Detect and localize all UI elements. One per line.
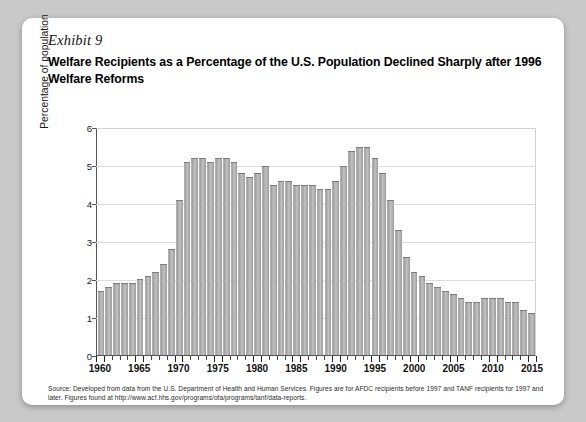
x-axis-tick-mark bbox=[245, 356, 246, 360]
bar bbox=[285, 181, 292, 355]
bar bbox=[505, 302, 512, 355]
bar bbox=[520, 310, 527, 355]
x-axis-tick-mark bbox=[104, 356, 105, 362]
x-axis-tick-mark bbox=[355, 356, 356, 360]
bar bbox=[152, 272, 159, 355]
y-axis-tick-label: 4 bbox=[72, 199, 92, 210]
bar bbox=[348, 151, 355, 355]
y-axis-tick-label: 3 bbox=[72, 237, 92, 248]
x-axis-tick-mark bbox=[237, 356, 238, 360]
x-axis-tick-mark bbox=[450, 356, 451, 362]
x-axis-tick-mark bbox=[300, 356, 301, 362]
x-axis-tick-mark bbox=[198, 356, 199, 360]
bar bbox=[223, 158, 230, 355]
bar bbox=[403, 257, 410, 355]
bar bbox=[184, 162, 191, 355]
x-axis-tick-mark bbox=[127, 356, 128, 360]
bar bbox=[419, 276, 426, 355]
x-axis-tick-mark bbox=[214, 356, 215, 362]
x-axis-tick-mark bbox=[120, 356, 121, 360]
bar bbox=[434, 287, 441, 355]
bar bbox=[137, 279, 144, 355]
x-axis-tick-label: 1985 bbox=[276, 363, 316, 374]
x-axis-tick-mark bbox=[340, 356, 341, 362]
y-axis-tick-label: 6 bbox=[72, 123, 92, 134]
bar bbox=[270, 185, 277, 355]
bar bbox=[473, 302, 480, 355]
bar bbox=[238, 173, 245, 355]
bar bbox=[278, 181, 285, 355]
y-axis-title: Percentage of population bbox=[39, 0, 50, 162]
exhibit-card: Exhibit 9 Welfare Recipients as a Percen… bbox=[22, 18, 564, 405]
bar bbox=[168, 249, 175, 355]
bar bbox=[356, 147, 363, 355]
y-axis-tick-mark bbox=[92, 280, 96, 281]
x-axis-tick-mark bbox=[292, 356, 293, 362]
x-axis-tick-mark bbox=[135, 356, 136, 362]
y-axis-tick-mark bbox=[92, 318, 96, 319]
bar bbox=[340, 166, 347, 355]
bar bbox=[442, 291, 449, 355]
bar bbox=[379, 173, 386, 355]
bar bbox=[387, 200, 394, 355]
bar bbox=[512, 302, 519, 355]
x-axis-tick-mark bbox=[230, 356, 231, 360]
bar bbox=[372, 158, 379, 355]
bar bbox=[332, 181, 339, 355]
bar bbox=[160, 264, 167, 355]
bar bbox=[262, 166, 269, 355]
x-axis-tick-mark bbox=[434, 356, 435, 360]
x-axis-tick-mark bbox=[497, 356, 498, 362]
source-note: Source: Developed from data from the U.S… bbox=[48, 384, 544, 403]
y-axis-tick-label: 0 bbox=[72, 351, 92, 362]
x-axis-tick-mark bbox=[512, 356, 513, 360]
bar bbox=[458, 298, 465, 355]
bar bbox=[215, 158, 222, 355]
x-axis-ticks bbox=[96, 356, 536, 362]
bar bbox=[528, 313, 535, 355]
y-axis-tick-mark bbox=[92, 356, 96, 357]
bar bbox=[481, 298, 488, 355]
y-axis-tick-label: 2 bbox=[72, 275, 92, 286]
bar bbox=[465, 302, 472, 355]
bar bbox=[231, 162, 238, 355]
x-axis-tick-mark bbox=[190, 356, 191, 360]
x-axis-tick-label: 1990 bbox=[316, 363, 356, 374]
x-axis-tick-mark bbox=[457, 356, 458, 362]
x-axis-tick-mark bbox=[143, 356, 144, 362]
bar bbox=[489, 298, 496, 355]
x-axis-tick-mark bbox=[505, 356, 506, 360]
x-axis-tick-label: 1995 bbox=[355, 363, 395, 374]
x-axis-tick-mark bbox=[222, 356, 223, 362]
bar bbox=[411, 272, 418, 355]
x-axis-tick-mark bbox=[151, 356, 152, 360]
x-axis-tick-mark bbox=[363, 356, 364, 360]
x-axis-tick-mark bbox=[402, 356, 403, 360]
bar bbox=[254, 173, 261, 355]
bar bbox=[176, 200, 183, 355]
y-axis-tick-mark bbox=[92, 204, 96, 205]
chart-title: Welfare Recipients as a Percentage of th… bbox=[48, 54, 548, 88]
x-axis-tick-mark bbox=[269, 356, 270, 360]
x-axis-tick-label: 1980 bbox=[237, 363, 277, 374]
bar bbox=[207, 162, 214, 355]
x-axis-tick-mark bbox=[261, 356, 262, 362]
x-axis-tick-mark bbox=[465, 356, 466, 360]
x-axis-tick-mark bbox=[167, 356, 168, 360]
bar bbox=[105, 287, 112, 355]
bar bbox=[325, 189, 332, 355]
bar-series bbox=[97, 128, 535, 355]
x-axis-tick-mark bbox=[481, 356, 482, 360]
x-axis-tick-label: 1970 bbox=[159, 363, 199, 374]
x-axis-tick-label: 1965 bbox=[119, 363, 159, 374]
bar bbox=[426, 283, 433, 355]
x-axis-tick-mark bbox=[277, 356, 278, 360]
bar bbox=[199, 158, 206, 355]
bar bbox=[121, 283, 128, 355]
x-axis-tick-mark bbox=[253, 356, 254, 362]
x-axis-tick-label: 2010 bbox=[473, 363, 513, 374]
x-axis-tick-mark bbox=[473, 356, 474, 360]
bar bbox=[145, 276, 152, 355]
x-axis-tick-mark bbox=[324, 356, 325, 360]
x-axis-tick-label: 2000 bbox=[394, 363, 434, 374]
